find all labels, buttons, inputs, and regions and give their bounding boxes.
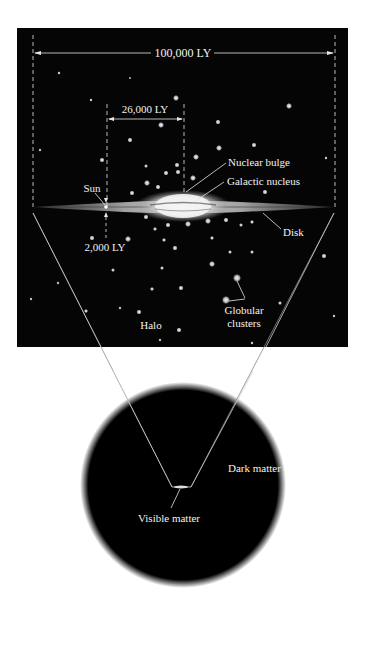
- dark-matter-halo: [80, 382, 286, 588]
- galaxy-diagram: 100,000 LY 26,000 LY Sun 2,000 LY Nuclea…: [0, 0, 366, 657]
- visible-matter-galaxy: [174, 486, 188, 489]
- globular-clusters-label-line2: clusters: [227, 317, 261, 329]
- nuclear-bulge-label: Nuclear bulge: [228, 156, 290, 168]
- globular-clusters-label-line1: Globular: [224, 304, 263, 316]
- sun-label: Sun: [83, 182, 101, 194]
- disk-label: Disk: [283, 226, 304, 238]
- space-panel: [17, 28, 348, 347]
- nuclear-bulge: [135, 190, 231, 222]
- disk-thickness-label: 2,000 LY: [84, 241, 125, 253]
- galactic-nucleus-label: Galactic nucleus: [227, 175, 300, 187]
- sun-marker: [104, 205, 108, 209]
- diameter-label: 100,000 LY: [155, 46, 212, 60]
- visible-matter-label: Visible matter: [138, 512, 200, 524]
- dark-matter-label: Dark matter: [228, 462, 281, 474]
- halo-label: Halo: [140, 319, 162, 331]
- sun-distance-label: 26,000 LY: [122, 103, 169, 115]
